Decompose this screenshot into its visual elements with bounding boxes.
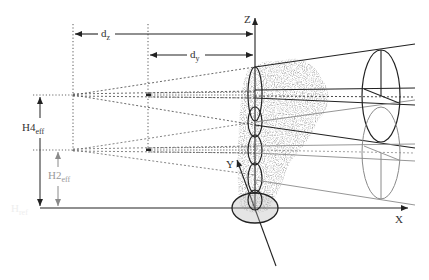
h2-eff-label: H2eff [46,170,72,184]
ground-ellipse [232,193,278,223]
h4-eff-label: H4eff [20,122,46,136]
dz-label: dz [99,28,112,42]
dy-label: dy [188,49,202,63]
y-axis-label: Y [224,159,236,170]
z-axis-label: Z [242,14,253,25]
x-axis-label: X [393,214,405,225]
diagram-canvas [0,0,429,280]
dy-marker-upper [146,94,151,97]
h-ref-label: Href [9,203,30,217]
ray-fan-upper-dz [73,67,255,125]
dy-marker-lower [146,149,151,152]
